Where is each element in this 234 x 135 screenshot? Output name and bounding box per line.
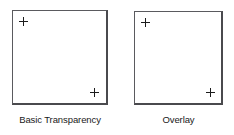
- plus-marker-icon-bottom-right: [206, 88, 215, 97]
- panel-basic-transparency: Basic Transparency: [12, 10, 108, 125]
- panel-caption-basic-transparency: Basic Transparency: [19, 114, 101, 125]
- overlay-canvas[interactable]: [134, 11, 223, 105]
- plus-marker-icon-top-left: [141, 18, 150, 27]
- panel-overlay: Overlay: [134, 11, 223, 125]
- basic-transparency-canvas[interactable]: [12, 10, 108, 105]
- transparency-comparison-figure: Basic Transparency Overlay: [0, 0, 234, 135]
- plus-marker-icon-top-left: [19, 17, 28, 26]
- plus-marker-icon-bottom-right: [90, 88, 99, 97]
- panel-caption-overlay: Overlay: [162, 114, 194, 125]
